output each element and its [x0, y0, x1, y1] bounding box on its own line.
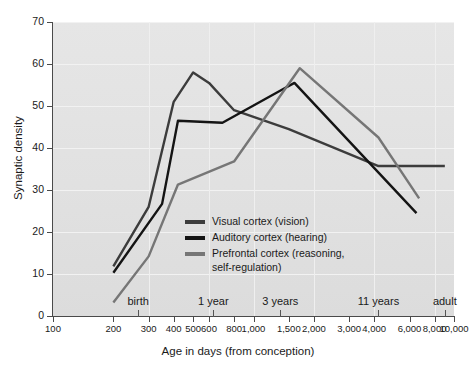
chart-legend: Visual cortex (vision)Auditory cortex (h… — [185, 215, 344, 276]
legend-label: Auditory cortex (hearing) — [212, 231, 327, 245]
legend-label: Prefrontal cortex (reasoning, self-regul… — [212, 247, 344, 275]
legend-item: Auditory cortex (hearing) — [185, 231, 344, 245]
legend-item: Visual cortex (vision) — [185, 215, 344, 229]
chart-figure: 010203040506070 1002003004005006008001,0… — [0, 0, 476, 369]
y-axis-label: Synaptic density — [12, 48, 24, 268]
series-lines — [0, 0, 476, 369]
legend-swatch — [185, 252, 205, 256]
legend-label: Visual cortex (vision) — [212, 215, 309, 229]
legend-item: Prefrontal cortex (reasoning, self-regul… — [185, 247, 344, 275]
x-axis-label: Age in days (from conception) — [0, 345, 476, 357]
legend-swatch — [185, 236, 205, 240]
legend-swatch — [185, 220, 205, 224]
